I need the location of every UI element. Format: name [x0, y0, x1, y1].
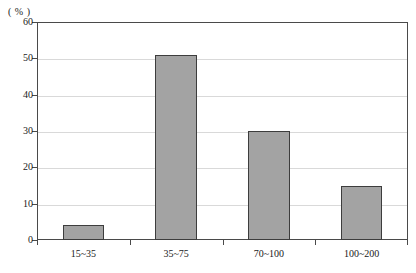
x-tick-mark	[223, 240, 224, 245]
x-tick-mark	[37, 240, 38, 245]
y-tick-label: 20	[3, 162, 33, 172]
bar	[341, 186, 383, 241]
x-tick-mark	[130, 240, 131, 245]
y-tick-label: 10	[3, 199, 33, 209]
x-tick-mark	[315, 240, 316, 245]
y-tick-label: 60	[3, 17, 33, 27]
bar	[248, 131, 290, 240]
bar	[155, 55, 197, 240]
bar-chart-figure: ( % ) 0102030405060 15~3535~7570~100100~…	[0, 0, 416, 273]
x-tick-mark	[407, 240, 408, 245]
x-category-label: 70~100	[223, 248, 316, 260]
y-tick-label: 40	[3, 90, 33, 100]
bar	[63, 225, 105, 240]
x-category-label: 15~35	[37, 248, 130, 260]
bars-container	[37, 22, 408, 240]
y-tick-label: 0	[3, 235, 33, 245]
y-axis-tick-labels: 0102030405060	[0, 22, 33, 240]
x-axis-category-labels: 15~3535~7570~100100~200	[37, 248, 408, 266]
x-axis-tick-marks	[37, 240, 408, 246]
y-tick-label: 30	[3, 126, 33, 136]
x-category-label: 35~75	[130, 248, 223, 260]
y-tick-label: 50	[3, 53, 33, 63]
x-category-label: 100~200	[315, 248, 408, 260]
